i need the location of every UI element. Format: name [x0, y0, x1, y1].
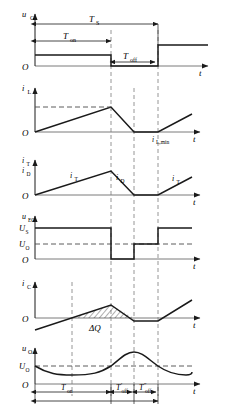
ic-axis-label-sub: C [27, 284, 31, 290]
origin-label-5: O [22, 314, 29, 324]
toff-label: T [123, 51, 129, 61]
panel-node-voltage: u EO U S U O O t [19, 212, 200, 271]
node-voltage-trace [35, 228, 192, 259]
output-voltage-trace [35, 352, 192, 375]
time-label-3: t [193, 197, 196, 207]
toff-dprime-label-sub: off [145, 388, 151, 394]
toff-label-sub: off [130, 57, 137, 63]
ton-label-bottom-sub: on [67, 388, 73, 394]
uo-axis-label: u [22, 343, 26, 353]
time-label-4: t [193, 261, 196, 271]
waveform-svg: u G O t T S T on T off i L O t i L,min i… [0, 0, 245, 419]
time-label-6: t [193, 386, 196, 396]
gate-pulse-trace [35, 45, 208, 66]
ton-label-sub: on [70, 37, 76, 43]
il-min-label-sub: L,min [156, 139, 170, 145]
origin-label-2: O [22, 128, 29, 138]
switch-diode-current-trace [35, 171, 192, 195]
ug-axis-label: u [22, 9, 26, 19]
il-min-label: i [152, 135, 154, 144]
origin-label-3: O [22, 191, 29, 201]
origin-label-1: O [22, 62, 29, 72]
period-label-sub: S [96, 20, 99, 26]
ueo-axis-label: u [22, 212, 26, 221]
time-label-2: t [193, 134, 196, 144]
panel-gate-voltage: u G O t T S T on T off [22, 9, 208, 78]
il-axis-label-sub: L [28, 89, 32, 95]
ic-axis-label: i [22, 278, 25, 288]
curve-label-it-1: i [70, 171, 72, 180]
mean-output-label-sub: O [26, 367, 30, 373]
period-label: T [89, 14, 95, 24]
id-axis-label: i [22, 166, 24, 175]
vertical-guide-lines [72, 30, 158, 396]
inductor-current-trace [35, 107, 192, 132]
il-axis-label: i [22, 83, 25, 93]
curve-label-it-1-sub: T [75, 176, 79, 182]
waveform-figure: u G O t T S T on T off i L O t i L,min i… [0, 0, 245, 419]
ueo-axis-label-sub: EO [28, 217, 35, 223]
toff-prime-label-sub: off [122, 388, 128, 394]
panel-output-voltage: u O U O O t T on T ′ off T ″ off [19, 343, 200, 404]
delta-q-label: ΔQ [88, 323, 101, 333]
curve-label-id: i [116, 173, 118, 182]
curve-label-it-2: i [172, 174, 174, 183]
time-label-5: t [193, 320, 196, 330]
time-label-1: t [199, 68, 202, 78]
uo-axis-label-sub: O [28, 349, 33, 355]
ug-axis-label-sub: G [30, 15, 35, 21]
uo-level-label-sub: O [26, 245, 30, 251]
origin-label-4: O [22, 255, 29, 265]
it-axis-label: i [22, 156, 24, 165]
id-axis-label-sub: D [27, 171, 31, 177]
ton-label: T [63, 31, 69, 41]
origin-label-6: O [22, 380, 29, 390]
curve-label-id-sub: D [121, 178, 125, 184]
us-level-label-sub: S [26, 229, 29, 235]
ton-label-bottom: T [61, 383, 66, 392]
it-axis-label-sub: T [27, 161, 31, 167]
